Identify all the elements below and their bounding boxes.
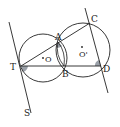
label-S: S: [24, 108, 30, 118]
label-O: O: [45, 55, 52, 64]
center-dot-O: [42, 57, 44, 59]
center-dot-O-prime: [81, 46, 83, 48]
geometry-diagram: A B C D T S O O': [0, 0, 120, 127]
label-T: T: [10, 62, 16, 72]
label-D: D: [103, 64, 110, 74]
label-O-prime: O': [79, 50, 88, 59]
label-A: A: [54, 32, 62, 42]
diagram-svg: A B C D T S O O': [0, 0, 120, 127]
label-C: C: [91, 14, 98, 24]
segment-TC: [21, 23, 90, 66]
label-B: B: [62, 69, 69, 79]
